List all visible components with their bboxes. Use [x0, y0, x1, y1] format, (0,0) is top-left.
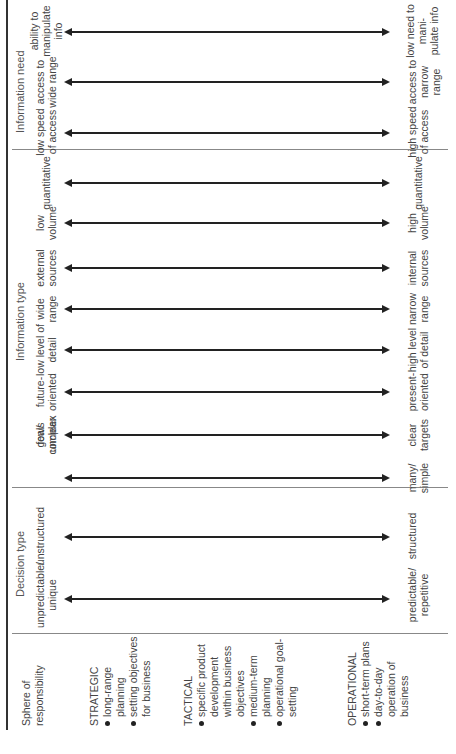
scale-bottom-label: low need to mani- pulate info	[404, 4, 440, 58]
scale-bottom-label: internal sources	[406, 242, 430, 294]
separator-infotype-infoneed	[12, 149, 448, 150]
group-title-information-type: Information type	[14, 282, 27, 361]
group-title-information-need: Information need	[14, 50, 27, 133]
bullet: day-to-day operation of business	[372, 631, 411, 726]
scale-top-label: quantitative	[40, 153, 52, 213]
scale-top-label: ability to manipulate info	[28, 4, 64, 58]
scale-top-label: access to wide range	[34, 56, 58, 108]
sphere-level-operational: OPERATIONAL short-term plans day-to-day …	[346, 631, 411, 726]
bullet: long-range planning	[101, 631, 127, 726]
top-rule	[6, 0, 8, 730]
level-title: OPERATIONAL	[346, 631, 359, 726]
rotated-diagram: Sphere of responsibility STRATEGIC long-…	[0, 0, 456, 754]
sphere-header: Sphere of responsibility	[20, 646, 46, 726]
scale-bottom-label: predictable/ repetitive	[406, 561, 430, 629]
group-title-decision-type: Decision type	[14, 531, 27, 597]
scale-bottom-label: structured	[406, 506, 418, 566]
scale-bottom-label: access to narrow range	[406, 56, 442, 108]
scale-top-label: external sources	[34, 242, 58, 294]
bullet: operational goal-setting	[273, 631, 299, 726]
bullet: medium-term planning	[247, 631, 273, 726]
separator-decision-infotype	[12, 487, 448, 488]
scale-bottom-label: many/ simple	[406, 453, 430, 503]
bullet: short-term plans	[359, 631, 372, 726]
scale-bottom-label: high speed of access	[406, 106, 430, 158]
scale-top-label: unpredictable/ unique	[34, 561, 58, 629]
scale-bottom-label: quantitative	[412, 153, 424, 213]
sphere-level-strategic: STRATEGIC long-range planning setting ob…	[88, 631, 153, 726]
level-title: TACTICAL	[182, 631, 195, 726]
bullet: specific product development within busi…	[195, 631, 247, 726]
scale-top-label: low speed of access	[34, 106, 58, 158]
scale-top-label: unstructured	[34, 506, 46, 566]
sphere-level-tactical: TACTICAL specific product development wi…	[182, 631, 299, 726]
level-title: STRATEGIC	[88, 631, 101, 726]
bullet: setting objectives for business	[127, 631, 153, 726]
